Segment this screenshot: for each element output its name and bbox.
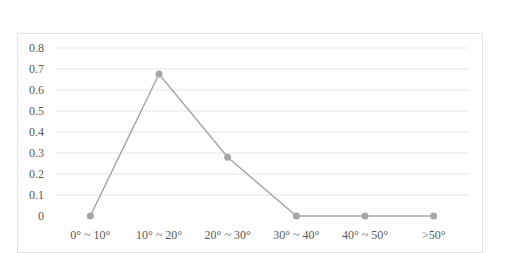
y-tick-label: 0.2 bbox=[29, 167, 44, 181]
x-tick-label: 20° ~ 30° bbox=[205, 228, 251, 240]
data-point bbox=[430, 213, 437, 220]
y-tick-label: 0 bbox=[38, 209, 44, 223]
x-tick-label: 10° ~ 20° bbox=[136, 228, 182, 240]
y-tick-label: 0.6 bbox=[29, 83, 44, 97]
x-axis-ticks: 0° ~ 10°10° ~ 20°20° ~ 30°30° ~ 40°40° ~… bbox=[70, 228, 445, 240]
data-point bbox=[156, 71, 163, 78]
data-point bbox=[362, 213, 369, 220]
x-tick-label: 40° ~ 50° bbox=[342, 228, 388, 240]
x-tick-label: 30° ~ 40° bbox=[273, 228, 319, 240]
y-tick-label: 0.1 bbox=[29, 188, 44, 202]
data-point bbox=[87, 213, 94, 220]
data-point bbox=[293, 213, 300, 220]
gridlines bbox=[56, 48, 468, 195]
y-tick-label: 0.4 bbox=[29, 125, 44, 139]
data-markers bbox=[87, 71, 437, 220]
y-tick-label: 0.8 bbox=[29, 41, 44, 55]
x-tick-label: >50° bbox=[422, 228, 446, 240]
y-tick-label: 0.7 bbox=[29, 62, 44, 76]
y-tick-label: 0.5 bbox=[29, 104, 44, 118]
y-tick-label: 0.3 bbox=[29, 146, 44, 160]
data-point bbox=[224, 154, 231, 161]
y-axis-ticks: 00.10.20.30.40.50.60.70.8 bbox=[29, 41, 44, 223]
x-tick-label: 0° ~ 10° bbox=[70, 228, 110, 240]
